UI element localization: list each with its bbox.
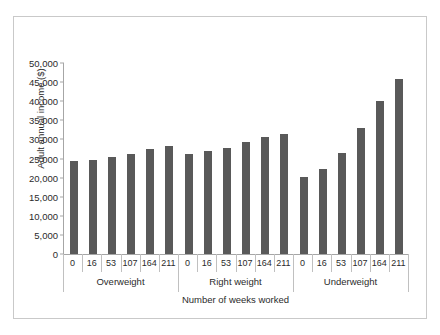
bar: [338, 153, 346, 254]
y-axis-tick-label: 20,000: [29, 172, 64, 183]
bar: [280, 134, 288, 254]
x-axis-group-label: Underweight: [293, 272, 408, 292]
x-axis-group-separator: [408, 272, 409, 292]
bar: [204, 151, 212, 254]
y-axis-tick-label: 50,000: [29, 58, 64, 69]
y-axis-tick-label: 35,000: [29, 115, 64, 126]
x-axis-tick-separator: [351, 254, 352, 272]
bar: [89, 160, 97, 254]
x-axis-tick-label: 107: [121, 254, 140, 272]
x-axis-tick-label: 0: [178, 254, 197, 272]
x-axis-tick-separator: [197, 254, 198, 272]
bar: [319, 169, 327, 254]
x-axis-tick-label: 164: [255, 254, 274, 272]
x-axis-title: Number of weeks worked: [63, 294, 408, 305]
x-axis-tick-label: 0: [293, 254, 312, 272]
x-axis-tick-separator: [101, 254, 102, 272]
x-axis-tick-label: 53: [101, 254, 120, 272]
x-axis-tick-labels: 0165310716421101653107164211016531071642…: [63, 254, 408, 272]
x-axis-tick-separator: [255, 254, 256, 272]
x-axis-group-separator: [63, 272, 64, 292]
y-axis-tick-label: 25,000: [29, 153, 64, 164]
bar: [261, 137, 269, 254]
x-axis-group-separator: [293, 272, 294, 292]
x-axis-tick-separator: [274, 254, 275, 272]
x-axis-tick-separator: [331, 254, 332, 272]
x-axis-tick-label: 0: [63, 254, 82, 272]
y-axis-tick-label: 15,000: [29, 191, 64, 202]
x-axis-tick-label: 107: [236, 254, 255, 272]
bar: [108, 157, 116, 254]
x-axis-tick-separator: [408, 254, 409, 272]
bar: [376, 101, 384, 254]
y-axis-tick-label: 45,000: [29, 77, 64, 88]
bar: [300, 177, 308, 254]
x-axis-tick-separator: [389, 254, 390, 272]
bar: [242, 142, 250, 254]
x-axis-tick-label: 211: [159, 254, 178, 272]
bar: [165, 146, 173, 254]
x-axis-group-labels: OverweightRight weightUnderweight: [63, 272, 408, 292]
bar: [127, 154, 135, 254]
x-axis-tick-label: 16: [312, 254, 331, 272]
x-axis-group-label: Overweight: [63, 272, 178, 292]
bar: [223, 148, 231, 254]
chart-frame: Adult annual income ($) 05,00010,00015,0…: [13, 16, 427, 319]
x-axis-tick-separator: [236, 254, 237, 272]
bar: [185, 154, 193, 254]
x-axis-tick-separator: [370, 254, 371, 272]
x-axis-tick-separator: [178, 254, 179, 272]
x-axis-tick-label: 16: [197, 254, 216, 272]
x-axis-tick-separator: [216, 254, 217, 272]
x-axis-tick-label: 53: [331, 254, 350, 272]
x-axis-tick-separator: [63, 254, 64, 272]
x-axis-tick-label: 164: [140, 254, 159, 272]
x-axis-tick-separator: [121, 254, 122, 272]
x-axis-tick-separator: [159, 254, 160, 272]
bar-series-container: [64, 63, 409, 254]
x-axis-tick-label: 211: [389, 254, 408, 272]
x-axis-tick-label: 16: [82, 254, 101, 272]
plot-area: 05,00010,00015,00020,00025,00030,00035,0…: [63, 63, 409, 255]
bar: [395, 79, 403, 254]
bar: [70, 161, 78, 254]
y-axis-tick-label: 40,000: [29, 96, 64, 107]
x-axis-tick-separator: [312, 254, 313, 272]
y-axis-tick-label: 30,000: [29, 134, 64, 145]
y-axis-tick-label: 10,000: [29, 210, 64, 221]
x-axis-group-label: Right weight: [178, 272, 293, 292]
x-axis-tick-separator: [293, 254, 294, 272]
x-axis-tick-separator: [82, 254, 83, 272]
bar: [146, 149, 154, 254]
x-axis-tick-label: 53: [216, 254, 235, 272]
x-axis-tick-label: 164: [370, 254, 389, 272]
x-axis-tick-label: 107: [351, 254, 370, 272]
bar: [357, 128, 365, 254]
x-axis-tick-label: 211: [274, 254, 293, 272]
x-axis-tick-separator: [140, 254, 141, 272]
x-axis-group-separator: [178, 272, 179, 292]
